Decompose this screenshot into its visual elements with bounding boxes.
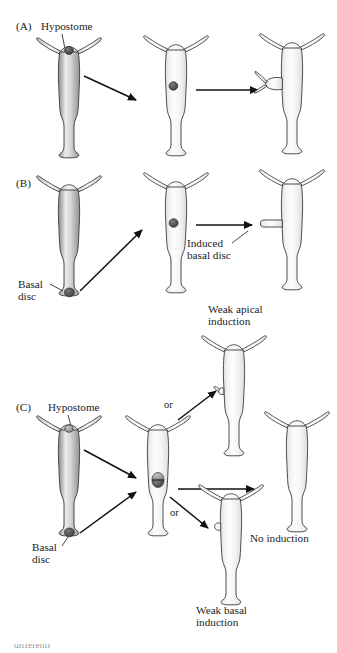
panel-c-weak-basal-label-line1: Weak basal [196,604,247,616]
hydra-body [286,426,307,532]
panel-b-label: (B) [16,177,31,190]
panel-c-arrow-from-hypostome [84,450,136,478]
bud-body [266,77,283,89]
panel-c-weak-apical-label-line1: Weak apical [208,303,263,315]
panel-b-induced-label-line1: Induced [187,237,223,249]
hydra-body [58,430,79,536]
panel-b-induced-label-line2: basal disc [187,249,231,261]
hypostome-graft-marker [65,46,74,54]
hydra-body [281,184,302,290]
panel-c-basal-disc-label-line2: disc [32,553,50,565]
hydra-body [165,50,186,156]
panel-c-basal-disc-label-line1: Basal [32,541,57,553]
hydra-body [58,52,79,158]
hydra-body [165,187,186,293]
panel-c: (C) Hypostome Basal disc [16,303,329,628]
weak-apical-outgrowth [214,386,224,394]
panel-c-outcome-weak-basal [199,485,264,605]
panel-b: (B) Basal disc Induced basal disc [16,170,324,302]
hydra-body [220,499,241,605]
panel-c-no-induction-label: No induction [250,532,309,544]
bud-tentacle-lower [254,85,267,93]
hypostome-graft-marker [65,425,73,432]
panel-b-induced-leader-line [232,231,248,243]
panel-c-outcome-no-induction [265,412,330,532]
panel-c-donor-hydra [37,416,102,537]
panel-c-or-label-lower: or [170,507,179,518]
panel-b-basal-disc-leader-line [50,284,63,291]
panel-a-label: (A) [16,20,32,33]
panel-a-host-hydra [144,36,209,156]
panel-a: (A) Hypostome [16,20,324,158]
induced-basal-disc-stalk [260,220,282,227]
panel-c-weak-basal-label-line2: induction [196,616,239,628]
weak-basal-outgrowth [215,523,221,530]
bud-tentacle-upper [255,71,268,82]
panel-b-host-hydra [144,173,209,293]
panel-c-weak-apical-label-line2: induction [208,315,251,327]
hydra-body [281,48,302,154]
panel-c-basal-disc-leader-line [62,537,68,546]
caption-cropped-line: differenti [0,644,337,653]
hydra-body [223,350,244,456]
panel-c-hypostome-label: Hypostome [48,401,100,413]
panel-b-basal-disc-label-line2: disc [18,290,36,302]
panel-b-result-hydra [260,170,325,290]
panel-c-arrow-weak-apical [178,391,216,420]
panel-a-hypostome-label: Hypostome [41,20,93,32]
panel-b-arrow-1 [80,230,142,291]
graft-marker-midbody [169,82,178,90]
panel-a-result-hydra [254,34,324,154]
hydra-grafting-figure: (A) Hypostome [0,0,337,653]
panel-c-outcome-weak-apical [202,336,267,456]
panel-a-arrow-1 [84,76,136,100]
panel-c-host-hydra [126,416,191,536]
panel-a-donor-hydra [37,38,102,158]
graft-marker-midbody [169,219,178,228]
hydra-body [58,190,79,296]
induced-secondary-axis [254,71,282,93]
figure-container: (A) Hypostome [0,0,337,653]
panel-b-basal-disc-label-line1: Basal [18,278,43,290]
caption-text: differenti [14,644,50,650]
weak-outgrowth-tentacle [214,386,219,391]
panel-c-label: (C) [16,401,31,414]
basal-disc-graft-marker [64,288,74,297]
panel-c-arrow-from-basal-disc [80,492,136,533]
basal-disc-graft-marker [64,528,74,537]
induced-basal-disc [260,220,282,227]
panel-c-or-label-upper: or [164,399,173,410]
